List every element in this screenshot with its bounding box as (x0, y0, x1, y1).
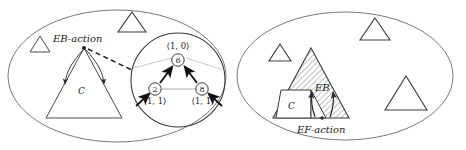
magnified-circle-inset: 6 2 8 ⟨1, 0⟩ ⟨1, 1⟩ ⟨1, 1⟩ (131, 33, 225, 127)
label-eb-action: EB-action (52, 33, 102, 44)
node-6-label: 6 (175, 56, 180, 65)
inset-ray-right (186, 58, 224, 70)
apex-dot-left (82, 46, 86, 50)
label-eb-right: EB (314, 82, 330, 93)
coord-node-2: ⟨1, 1⟩ (144, 96, 167, 106)
diagram-canvas: C EB-action 6 2 (0, 0, 466, 150)
inset-ray-left (133, 58, 172, 68)
triangle-right-icon (385, 76, 427, 110)
ef-base-dot (320, 116, 324, 120)
right-panel: C EB EF-action (237, 12, 453, 140)
edge-n2-n6 (160, 67, 172, 83)
left-panel: C EB-action 6 2 (8, 10, 226, 142)
triangle-top-left-icon-right (269, 44, 291, 61)
triangle-top-mid-icon-right (360, 18, 390, 40)
node-2-label: 2 (152, 85, 157, 94)
triangle-top-mid-icon (118, 12, 146, 32)
label-C-left: C (78, 86, 85, 96)
triangle-C-shape (46, 48, 122, 118)
left-ellipse-boundary (8, 10, 226, 142)
label-C-right: C (288, 101, 295, 111)
right-ellipse-boundary (237, 12, 453, 140)
figure-root: C EB-action 6 2 (0, 0, 466, 150)
edge-n8-n6 (185, 67, 197, 83)
coord-node-8: ⟨1, 1⟩ (192, 96, 215, 106)
triangle-top-left-icon (30, 36, 50, 52)
coord-node-6: ⟨1, 0⟩ (167, 41, 190, 51)
node-8-label: 8 (199, 85, 204, 94)
label-ef-action: EF-action (296, 124, 345, 135)
